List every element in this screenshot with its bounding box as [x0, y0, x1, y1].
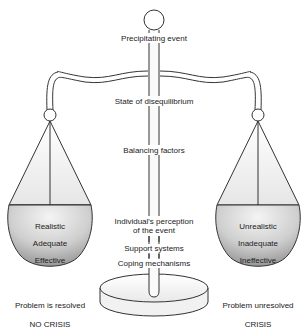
left-pan-item-effective: Effective	[35, 256, 66, 265]
label-support-systems: Support systems	[124, 244, 184, 253]
label-perception-line1: Individual's perception	[115, 217, 194, 226]
right-result-label: CRISIS	[245, 320, 272, 329]
balance-scale-diagram: Realistic Adequate Effective Unrealistic…	[0, 0, 307, 332]
right-pan-item-ineffective: Ineffective	[240, 256, 277, 265]
label-coping-mechanisms: Coping mechanisms	[118, 259, 190, 268]
left-outcome-label: Problem is resolved	[15, 301, 85, 310]
left-result-label: NO CRISIS	[30, 320, 71, 329]
right-pan-item-unrealistic: Unrealistic	[239, 222, 276, 231]
left-pan-item-adequate: Adequate	[33, 239, 68, 248]
label-perception-line2: of the event	[133, 226, 176, 235]
left-pan-item-realistic: Realistic	[35, 222, 65, 231]
right-outcome-label: Problem unresolved	[222, 301, 293, 310]
label-precipitating-event: Precipitating event	[121, 34, 188, 43]
left-pan: Realistic Adequate Effective	[8, 109, 92, 266]
right-pan-item-inadequate: Inadequate	[238, 239, 279, 248]
label-balancing-factors: Balancing factors	[123, 146, 184, 155]
label-state-of-disequilibrium: State of disequilibrium	[115, 97, 194, 106]
right-pan: Unrealistic Inadequate Ineffective	[216, 109, 300, 266]
